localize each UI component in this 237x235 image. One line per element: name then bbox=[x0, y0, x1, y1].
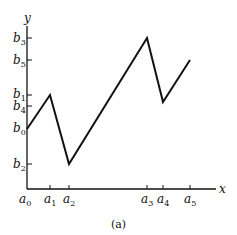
y-tick-b3: b3 bbox=[13, 31, 26, 47]
x-tick-a5: a5 bbox=[184, 192, 196, 208]
x-tick-a2: a2 bbox=[63, 192, 75, 208]
y-tick-b5: b5 bbox=[13, 53, 26, 69]
x-tick-a3: a3 bbox=[141, 192, 153, 208]
x-tick-labels: a0 a1 a2 a3 a4 a5 bbox=[19, 192, 196, 208]
y-axis-label: y bbox=[23, 11, 31, 25]
y-tick-b0: b0 bbox=[13, 121, 26, 137]
piecewise-linear-diagram: y x b3 b5 b1 b4 b0 b2 a0 a1 a2 a3 a4 a5 … bbox=[0, 0, 237, 235]
x-axis-label: x bbox=[219, 182, 226, 196]
piecewise-curve bbox=[27, 38, 190, 164]
x-tick-a1: a1 bbox=[44, 192, 56, 208]
x-tick-a4: a4 bbox=[157, 192, 169, 208]
y-ticks bbox=[27, 38, 32, 164]
y-tick-b2: b2 bbox=[13, 157, 26, 173]
x-tick-a0: a0 bbox=[19, 192, 31, 208]
y-tick-labels: b3 b5 b1 b4 b0 b2 bbox=[13, 31, 26, 173]
figure-caption: (a) bbox=[111, 218, 126, 231]
